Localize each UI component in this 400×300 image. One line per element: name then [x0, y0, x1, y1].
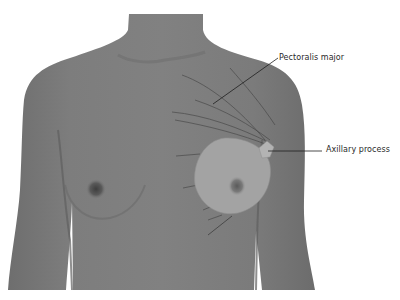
label-axillary-process: Axillary process [326, 145, 390, 154]
anatomy-figure: Pectoralis major Axillary process [0, 0, 400, 300]
left-areola [86, 179, 106, 199]
right-areola [228, 176, 246, 196]
label-pectoralis-major: Pectoralis major [279, 53, 344, 62]
